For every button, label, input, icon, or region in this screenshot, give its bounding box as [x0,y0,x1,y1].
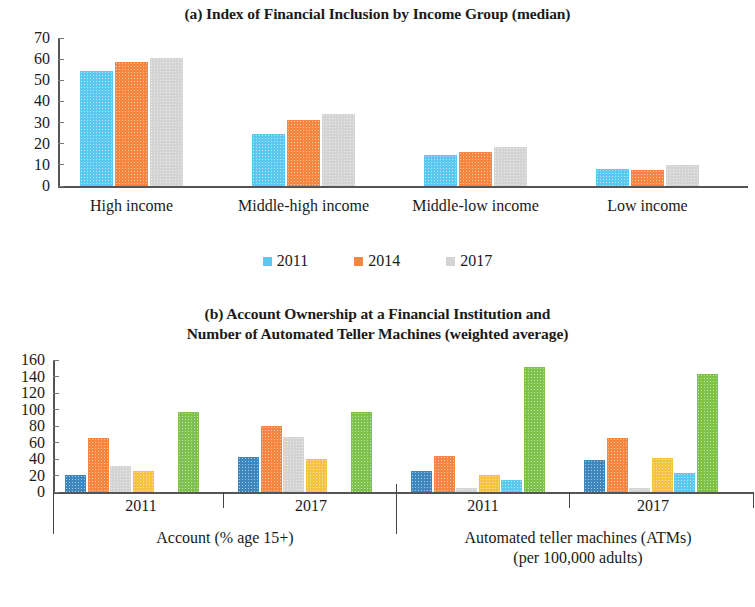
chart-a-bar [80,71,113,186]
chart-a-y-tick [58,80,64,81]
chart-b-bar [238,457,259,492]
chart-b-y-tick [53,409,59,410]
chart-b-bar [479,475,500,492]
chart-b-bar [88,438,109,492]
chart-b-bar [501,480,522,492]
chart-b-group-label: 2011 [433,497,533,515]
chart-a-bar [459,152,492,186]
chart-a-plot-area: 010203040506070 [58,38,748,186]
chart-b-y-tick-label: 40 [1,451,45,467]
chart-b-bar [133,471,154,492]
chart-a-x-axis [58,186,748,188]
chart-b-y-tick-label: 20 [1,468,45,484]
chart-a-legend-label: 2014 [368,253,400,269]
chart-b-bar [697,374,718,492]
chart-a-y-tick [58,186,64,187]
chart-a-legend-label: 2017 [460,253,492,269]
chart-b-bar [411,471,432,492]
chart-a-y-tick-label: 10 [6,157,50,173]
chart-a-legend-swatch [263,257,272,266]
chart-b-y-tick-label: 120 [1,385,45,401]
chart-a-bar [631,170,664,186]
chart-a-y-tick-label: 40 [6,93,50,109]
chart-b-bar [652,458,673,492]
chart-b-bar [65,475,86,492]
chart-b-group-tick [223,492,224,508]
chart-a-bar [322,114,355,186]
chart-a-y-tick-label: 70 [6,30,50,46]
chart-a-y-tick [58,101,64,102]
chart-b-y-tick-label: 80 [1,418,45,434]
chart-b-y-tick [53,393,59,394]
chart-a-y-tick [58,164,64,165]
chart-a-bar [287,120,320,186]
chart-a-legend: 201120142017 [0,253,755,269]
chart-a-category-label: Middle-low income [386,196,566,215]
chart-b-section-caption: Automated teller machines (ATMs)(per 100… [403,528,753,568]
chart-b-y-tick [53,442,59,443]
chart-a-y-tick [58,38,64,39]
chart-b-section-caption-line2: (per 100,000 adults) [403,548,753,568]
chart-b-group-label: 2017 [261,497,361,515]
chart-a-bar [150,58,183,186]
chart-b-y-tick-label: 0 [1,484,45,500]
chart-b-bar [629,488,650,492]
chart-b-title-line1: (b) Account Ownership at a Financial Ins… [0,304,755,324]
chart-b-bar [607,438,628,492]
chart-a-y-tick-label: 50 [6,72,50,88]
chart-b-bar [524,367,545,492]
chart-a-legend-label: 2011 [277,253,308,269]
chart-b-y-tick [53,459,59,460]
chart-b-bar [110,466,131,492]
chart-a-y-tick [58,122,64,123]
chart-b-y-tick-label: 100 [1,402,45,418]
chart-a-bar [494,147,527,186]
chart-b-axis-left-cap [53,492,54,534]
chart-b-y-tick-label: 140 [1,369,45,385]
chart-a-y-tick-label: 30 [6,115,50,131]
chart-b-y-tick-label: 60 [1,435,45,451]
chart-a-y-tick-label: 0 [6,178,50,194]
chart-b-bar [178,412,199,492]
chart-b-bar [306,459,327,492]
chart-a-y-tick-label: 20 [6,136,50,152]
chart-b-bar [283,437,304,492]
chart-b-section-caption-line1: Automated teller machines (ATMs) [403,528,753,548]
chart-panel-b: (b) Account Ownership at a Financial Ins… [0,290,755,607]
chart-a-category-label: Middle-high income [214,196,394,215]
chart-b-bar [456,488,477,492]
chart-b-plot-area: 020406080100120140160 [53,360,753,492]
chart-b-title: (b) Account Ownership at a Financial Ins… [0,290,755,344]
chart-b-bar [584,460,605,492]
chart-b-group-label: 2017 [603,497,703,515]
chart-a-category-label: High income [42,196,222,215]
chart-b-y-tick [53,475,59,476]
chart-a-legend-item: 2014 [354,253,400,269]
chart-a-bar [424,155,457,186]
chart-b-axis-right-cap [753,492,754,508]
chart-b-group-label: 2011 [91,497,191,515]
chart-b-bar [434,456,455,492]
chart-a-legend-item: 2011 [263,253,308,269]
chart-a-bar [596,169,629,186]
chart-b-title-line2: Number of Automated Teller Machines (wei… [0,324,755,344]
chart-b-y-tick [53,360,59,361]
chart-b-y-tick-label: 160 [1,352,45,368]
chart-b-bar [674,473,695,492]
chart-b-section-divider [396,484,397,534]
chart-a-title: (a) Index of Financial Inclusion by Inco… [0,0,755,24]
chart-a-legend-swatch [354,257,363,266]
chart-a-y-tick [58,143,64,144]
chart-b-section-caption-line1: Account (% age 15+) [50,528,400,548]
chart-b-section-caption: Account (% age 15+) [50,528,400,548]
chart-panel-a: (a) Index of Financial Inclusion by Inco… [0,0,755,290]
chart-b-x-axis [53,492,753,494]
chart-a-bar [115,62,148,186]
chart-a-bar [666,165,699,186]
chart-b-bar [261,426,282,492]
chart-b-y-tick [53,376,59,377]
chart-a-category-label: Low income [558,196,738,215]
chart-a-legend-swatch [446,257,455,266]
chart-a-y-tick-label: 60 [6,51,50,67]
chart-b-y-tick [53,426,59,427]
